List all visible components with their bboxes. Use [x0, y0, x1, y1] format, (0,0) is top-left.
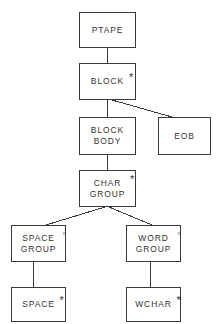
node-ptape-label-wrap: PTAPE	[92, 25, 124, 36]
node-word-group[interactable]: WORD GROUP °	[126, 225, 181, 262]
node-wchar[interactable]: WCHAR *	[126, 287, 181, 322]
node-space-group[interactable]: SPACE GROUP °	[11, 225, 66, 262]
node-word-group-label-wrap: WORD GROUP °	[136, 233, 172, 255]
node-block-label: BLOCK	[91, 76, 124, 87]
node-block-body-label-wrap: BLOCK BODY	[91, 125, 124, 147]
node-block[interactable]: BLOCK *	[79, 63, 136, 100]
edge-block-to-eob	[112, 100, 172, 117]
node-space-marker-asterisk-icon: *	[60, 296, 64, 304]
node-eob-label-wrap: EOB	[174, 131, 195, 142]
tree-diagram: PTAPE BLOCK * BLOCK BODY EOB CHAR GROUP …	[0, 0, 216, 324]
node-ptape-label: PTAPE	[92, 25, 124, 36]
node-block-body[interactable]: BLOCK BODY	[79, 117, 136, 155]
node-ptape[interactable]: PTAPE	[79, 12, 136, 48]
edge-char-group-to-space-group	[46, 207, 105, 225]
node-wchar-label: WCHAR	[135, 299, 172, 310]
node-space-label: SPACE	[22, 299, 55, 310]
edge-layer	[0, 0, 216, 324]
node-char-group-label-wrap: CHAR GROUP *	[90, 178, 126, 200]
node-space-group-label-line2: GROUP	[21, 244, 57, 255]
node-block-marker-asterisk-icon: *	[129, 73, 133, 81]
node-block-body-label-line2: BODY	[91, 136, 124, 147]
node-eob[interactable]: EOB	[158, 117, 211, 155]
node-wchar-marker-asterisk-icon: *	[177, 296, 181, 304]
node-space-group-label-wrap: SPACE GROUP °	[21, 233, 57, 255]
node-block-label-wrap: BLOCK *	[91, 76, 124, 87]
node-space-group-label-line1: SPACE	[21, 233, 57, 244]
node-char-group-marker-asterisk-icon: *	[130, 175, 134, 183]
node-word-group-label-line2: GROUP	[136, 244, 172, 255]
node-eob-label: EOB	[174, 131, 195, 142]
node-block-body-label-line1: BLOCK	[91, 125, 124, 136]
node-space[interactable]: SPACE *	[11, 287, 66, 322]
node-char-group[interactable]: CHAR GROUP *	[79, 170, 136, 207]
node-char-group-label-line1: CHAR	[90, 178, 126, 189]
node-space-group-marker-degree-icon: °	[63, 232, 66, 240]
node-space-label-wrap: SPACE *	[22, 299, 55, 310]
node-wchar-label-wrap: WCHAR *	[135, 299, 172, 310]
edge-char-group-to-word-group	[109, 207, 152, 225]
node-word-group-label-line1: WORD	[136, 233, 172, 244]
node-char-group-label-line2: GROUP	[90, 189, 126, 200]
node-word-group-marker-degree-icon: °	[178, 232, 181, 240]
